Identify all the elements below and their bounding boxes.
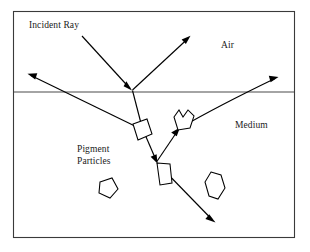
label-medium: Medium [235, 120, 268, 132]
scattering-diagram: Incident Ray Air Medium Pigment Particle… [0, 0, 310, 252]
label-incident-ray: Incident Ray [29, 20, 79, 32]
pigment-particle-sliver [157, 163, 172, 185]
label-air: Air [221, 40, 234, 52]
label-pigment-particles: Pigment Particles [77, 144, 111, 167]
